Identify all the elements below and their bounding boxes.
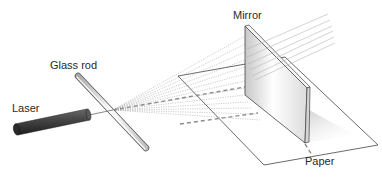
diagram-svg [0, 0, 382, 179]
glass-rod-label: Glass rod [50, 60, 97, 71]
paper-label: Paper [305, 156, 334, 167]
laser-label: Laser [12, 103, 40, 114]
diagram-canvas: Glass rod Laser Mirror Paper [0, 0, 382, 179]
mirror-label: Mirror [233, 10, 262, 21]
